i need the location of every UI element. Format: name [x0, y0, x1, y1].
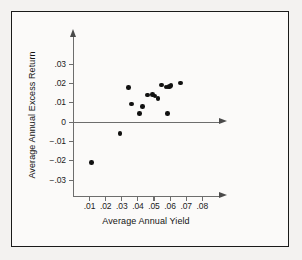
y-tick-mark — [69, 180, 74, 181]
x-tick-mark — [186, 196, 187, 201]
x-tick-label: .08 — [192, 201, 212, 211]
y-tick-mark — [69, 141, 74, 142]
y-tick-mark — [69, 83, 74, 84]
y-tick-mark — [69, 64, 74, 65]
y-tick-label: .01 — [54, 97, 66, 107]
figure-container: .03.02.010−.01−.02−.03 .01.02.03.04.05.0… — [0, 0, 302, 260]
data-point — [159, 83, 164, 88]
y-axis-title: Average Annual Excess Return — [27, 35, 37, 195]
y-tick-label: .03 — [54, 59, 66, 69]
zero-line-arrow-icon — [219, 118, 227, 124]
zero-reference-line — [73, 122, 220, 123]
x-tick-mark — [153, 196, 154, 201]
data-point — [178, 81, 183, 86]
data-point — [169, 83, 174, 88]
y-tick-mark — [69, 160, 74, 161]
x-tick-mark — [121, 196, 122, 201]
data-point — [156, 96, 161, 101]
x-tick-mark — [202, 196, 203, 201]
x-axis-line — [73, 196, 220, 197]
x-tick-mark — [137, 196, 138, 201]
data-point — [126, 85, 131, 90]
y-tick-label: −.03 — [50, 175, 66, 185]
x-tick-mark — [170, 196, 171, 201]
x-axis-arrow-icon — [219, 192, 227, 198]
y-tick-label: 0 — [61, 117, 66, 127]
data-point — [89, 160, 94, 165]
x-axis-title: Average Annual Yield — [56, 216, 236, 226]
y-tick-label: .02 — [54, 78, 66, 88]
scatter-plot: .03.02.010−.01−.02−.03 .01.02.03.04.05.0… — [0, 0, 302, 260]
data-point — [129, 102, 134, 107]
data-point — [137, 111, 142, 116]
x-tick-mark — [89, 196, 90, 201]
y-tick-label: −.02 — [50, 155, 66, 165]
y-axis-line — [73, 36, 74, 196]
y-tick-mark — [69, 102, 74, 103]
data-point — [118, 131, 123, 136]
y-tick-mark — [69, 122, 74, 123]
data-point — [140, 104, 145, 109]
y-axis-arrow-icon — [70, 29, 76, 37]
x-tick-mark — [105, 196, 106, 201]
y-tick-label: −.01 — [50, 136, 66, 146]
data-point — [165, 111, 170, 116]
